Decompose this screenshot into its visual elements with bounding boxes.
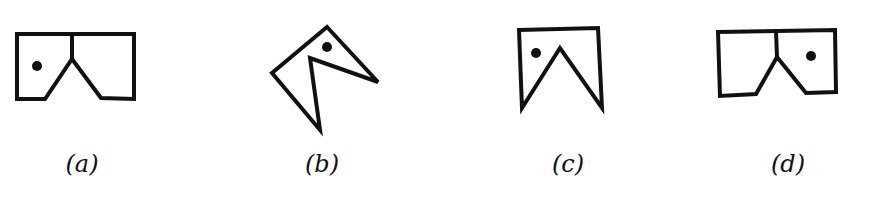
option-d-divider bbox=[776, 31, 777, 57]
option-d-label: (d) bbox=[771, 150, 805, 178]
option-c-label: (c) bbox=[552, 150, 584, 178]
option-b-figure bbox=[272, 27, 378, 130]
figure-canvas bbox=[0, 0, 891, 216]
option-c-figure bbox=[519, 28, 602, 108]
option-d-figure bbox=[718, 30, 836, 96]
option-a-label: (a) bbox=[65, 150, 98, 178]
option-d-dot bbox=[806, 51, 816, 61]
option-c-outline bbox=[519, 28, 602, 108]
option-b-label: (b) bbox=[305, 150, 339, 178]
option-b-dot bbox=[322, 42, 332, 52]
option-c-dot bbox=[531, 48, 541, 58]
option-a-figure bbox=[17, 34, 134, 99]
option-a-dot bbox=[32, 61, 42, 71]
